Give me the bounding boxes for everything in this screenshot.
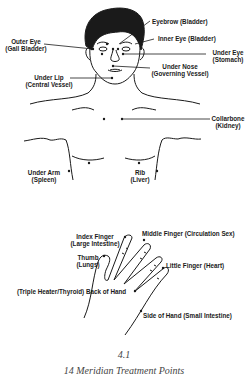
label-text: Inner Eye (Bladder) [158, 35, 216, 42]
label-inner-eye: Inner Eye (Bladder) [158, 35, 216, 42]
label-subtext: (Lungs) [74, 261, 102, 268]
label-rib: Rib(Liver) [128, 169, 152, 183]
label-text: Eyebrow (Bladder) [152, 18, 208, 25]
label-text: Thumb [74, 254, 102, 261]
label-under-arm: Under Arm(Spleen) [24, 169, 64, 183]
label-under-nose: Under Nose(Governing Vessel) [146, 63, 214, 77]
label-subtext: (Kidney) [208, 122, 248, 129]
label-text: Index Finger [68, 233, 122, 240]
label-text: Outer Eye [4, 38, 48, 45]
label-subtext: (Large Intestine) [68, 240, 122, 247]
label-outer-eye: Outer Eye(Gall Bladder) [4, 38, 48, 52]
label-under-eye: Under Eye(Stomach) [208, 49, 248, 63]
hand-drawing [84, 235, 168, 335]
label-subtext: (Gall Bladder) [4, 45, 48, 52]
face-point-dots [92, 43, 124, 120]
hand-point-dots [103, 236, 164, 312]
label-under-lip: Under Lip(Central Vessel) [20, 74, 78, 88]
label-text: Rib [128, 169, 152, 176]
label-text: (Triple Heater/Thyroid) Back of Hand [17, 288, 126, 295]
label-little-finger: Little Finger (Heart) [166, 262, 224, 269]
figure-title: 14 Meridian Treatment Points [0, 365, 248, 376]
label-text: Under Nose [146, 63, 214, 70]
label-collarbone: Collarbone(Kidney) [208, 115, 248, 129]
label-subtext: (Stomach) [208, 56, 248, 63]
label-subtext: (Liver) [128, 176, 152, 183]
label-eyebrow: Eyebrow (Bladder) [152, 18, 208, 25]
label-text: Little Finger (Heart) [166, 262, 224, 269]
label-text: Collarbone [208, 115, 248, 122]
label-text: Middle Finger (Circulation Sex) [142, 230, 235, 237]
figure-number: 4.1 [0, 349, 248, 360]
label-subtext: (Central Vessel) [20, 81, 78, 88]
label-back-of-hand: (Triple Heater/Thyroid) Back of Hand [17, 288, 126, 295]
label-subtext: (Governing Vessel) [146, 70, 214, 77]
label-side-of-hand: Side of Hand (Small Intestine) [143, 312, 232, 319]
label-text: Under Eye [208, 49, 248, 56]
label-middle-finger: Middle Finger (Circulation Sex) [142, 230, 235, 237]
label-text: Side of Hand (Small Intestine) [143, 312, 232, 319]
label-text: Under Lip [20, 74, 78, 81]
label-index-finger: Index Finger(Large Intestine) [68, 233, 122, 247]
label-text: Under Arm [24, 169, 64, 176]
label-subtext: (Spleen) [24, 176, 64, 183]
label-thumb: Thumb(Lungs) [74, 254, 102, 268]
